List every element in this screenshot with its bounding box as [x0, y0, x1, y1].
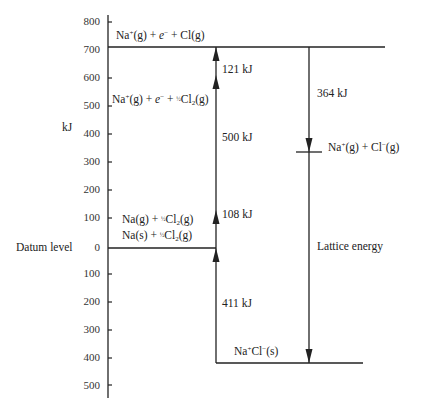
step-label-364: 364 kJ: [317, 88, 347, 100]
tick-neg-400: 400: [70, 352, 100, 363]
tick-400: 400: [70, 128, 100, 139]
step-label-411: 411 kJ: [222, 298, 252, 310]
arrow-up-108-icon: [213, 210, 220, 224]
step-label-500: 500 kJ: [222, 132, 252, 144]
label-na-solid-half-cl2: Na(s) + ½Cl2(g): [122, 230, 192, 242]
arrow-up-411-icon: [213, 248, 220, 262]
tick-600: 600: [70, 72, 100, 83]
datum-level-label: Datum level: [16, 242, 73, 254]
tick-800: 800: [70, 16, 100, 27]
arrow-down-364-icon: [306, 138, 313, 152]
step-label-121: 121 kJ: [222, 64, 252, 76]
arrow-up-500-icon: [213, 75, 220, 89]
label-na-gas-half-cl2: Na(g) + ½Cl2(g): [122, 214, 193, 226]
tick-neg-500: 500: [70, 380, 100, 391]
tick-neg-100: 100: [70, 268, 100, 279]
tick-0: 0: [70, 242, 100, 253]
born-haber-diagram: [0, 0, 422, 414]
step-label-lattice-energy: Lattice energy: [317, 241, 383, 253]
label-na-ion-e-half-cl2: Na+(g) + e− + ½Cl2(g): [112, 94, 209, 106]
tick-300: 300: [70, 156, 100, 167]
label-na-ion-e-cl-atom: Na+(g) + e− + Cl(g): [116, 30, 205, 42]
step-label-108: 108 kJ: [222, 209, 252, 221]
tick-700: 700: [70, 44, 100, 55]
label-nacl-solid: Na+Cl−(s): [234, 346, 278, 358]
tick-neg-200: 200: [70, 296, 100, 307]
arrow-up-121-icon: [213, 47, 220, 61]
axis-unit-label: kJ: [62, 122, 72, 134]
tick-100: 100: [70, 212, 100, 223]
tick-neg-300: 300: [70, 324, 100, 335]
arrow-down-lattice-icon: [306, 349, 313, 363]
tick-200: 200: [70, 184, 100, 195]
label-na-ion-cl-ion-gas: Na+(g) + Cl−(g): [328, 142, 399, 154]
tick-500: 500: [70, 100, 100, 111]
